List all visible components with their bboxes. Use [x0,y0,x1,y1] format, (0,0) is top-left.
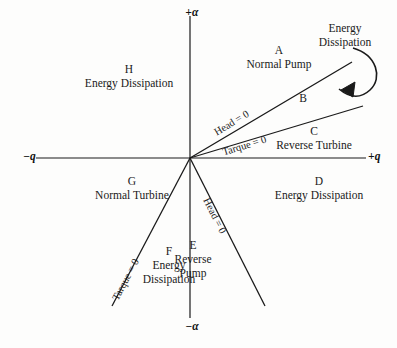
zone-F-letter: F [133,245,205,259]
zone-G: G Normal Turbine [78,175,186,203]
zone-H-name: Energy Dissipation [68,77,190,91]
axis-label-negative-alpha: −α [172,320,212,333]
energy-dissipation-callout-label: Energy Dissipation [300,22,390,50]
zone-C-name: Reverse Turbine [262,139,366,153]
zone-D: D Energy Dissipation [260,175,378,203]
zone-F: F Energy Dissipation [133,245,205,286]
axis-label-negative-q: −q [12,150,36,163]
zone-F-name: Energy Dissipation [133,259,205,287]
zone-C-letter: C [262,125,366,139]
pump-characteristic-figure: +α −α −q +q Head = 0 Tarque = 0 Tarque =… [0,0,397,348]
zone-C: C Reverse Turbine [262,125,366,153]
diagram-canvas [0,0,397,348]
zone-A-name: Normal Pump [236,58,322,72]
zone-H: H Energy Dissipation [68,63,190,91]
zone-D-letter: D [260,175,378,189]
axis-label-positive-q: +q [368,150,394,163]
zone-B-letter: B [291,92,315,106]
zone-G-letter: G [78,175,186,189]
zone-B: B [291,92,315,106]
zone-H-letter: H [68,63,190,77]
zone-D-name: Energy Dissipation [260,189,378,203]
zone-G-name: Normal Turbine [78,189,186,203]
axis-label-positive-alpha: +α [172,6,212,19]
